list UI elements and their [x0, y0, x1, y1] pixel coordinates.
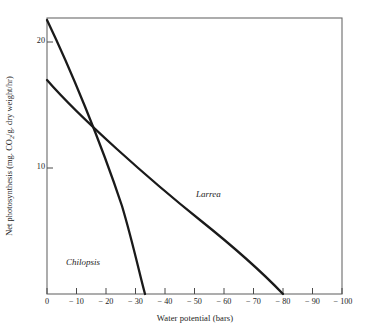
- series-label-chilopsis: Chilopsis: [66, 257, 100, 267]
- x-tick-label-0: 0: [32, 297, 62, 306]
- y-axis-title-subscript: 2: [8, 136, 15, 139]
- chart-figure: Net photosynthesis (mg. CO2/g. dry weigh…: [0, 0, 365, 335]
- y-tick-label-10: 10: [23, 162, 45, 171]
- x-tick-label-minus50: − 50: [180, 297, 210, 306]
- series-label-larrea: Larrea: [196, 189, 221, 199]
- x-tick-label-minus30: − 30: [121, 297, 151, 306]
- y-axis-title-after: /g. dry weight/hr): [5, 76, 14, 136]
- x-tick-label-minus40: − 40: [150, 297, 180, 306]
- x-tick-label-minus20: − 20: [91, 297, 121, 306]
- x-tick-label-minus100: − 100: [328, 297, 358, 306]
- plot-area: [0, 0, 365, 335]
- x-tick-label-minus80: − 80: [268, 297, 298, 306]
- plot-frame: [47, 18, 342, 294]
- y-axis-title: Net photosynthesis (mg. CO2/g. dry weigh…: [2, 6, 18, 306]
- x-axis-title: Water potential (bars): [47, 313, 343, 323]
- x-tick-label-minus10: − 10: [62, 297, 92, 306]
- x-tick-label-minus90: − 90: [298, 297, 328, 306]
- x-tick-label-minus60: − 60: [209, 297, 239, 306]
- y-tick-label-20: 20: [23, 36, 45, 45]
- x-tick-label-minus70: − 70: [239, 297, 269, 306]
- y-axis-title-before: Net photosynthesis (mg. CO: [5, 139, 14, 236]
